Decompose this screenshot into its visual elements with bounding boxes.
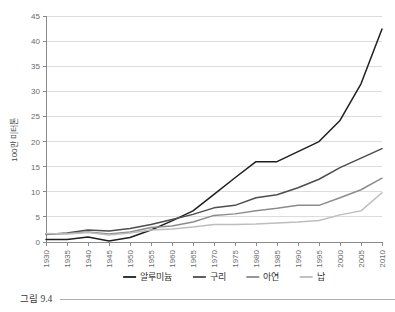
x-tick-label: 1965 <box>189 249 198 267</box>
y-tick-label: 40 <box>31 37 40 46</box>
x-tick-label: 1935 <box>63 249 72 267</box>
legend: 알루미늄구리아연납 <box>123 272 325 282</box>
x-tick-label: 1985 <box>273 249 282 267</box>
x-tick-label: 1945 <box>105 249 114 267</box>
x-tick-label: 2010 <box>378 249 387 267</box>
x-tick-label: 1930 <box>42 249 51 267</box>
y-axis-title: 100만 미터톤 <box>10 118 19 162</box>
x-tick-label: 1970 <box>210 249 219 267</box>
series-line <box>46 193 382 235</box>
x-tick-label: 1980 <box>252 249 261 267</box>
y-axis-ticks: 051015202530354045 <box>31 12 46 247</box>
series-line <box>46 29 382 241</box>
x-tick-label: 2000 <box>336 249 345 267</box>
y-tick-label: 5 <box>36 213 41 222</box>
x-tick-label: 1990 <box>294 249 303 267</box>
y-tick-label: 10 <box>31 188 40 197</box>
data-series <box>46 29 382 241</box>
legend-label[interactable]: 아연 <box>263 272 279 282</box>
x-tick-label: 1960 <box>168 249 177 267</box>
x-tick-label: 1975 <box>231 249 240 267</box>
x-tick-label: 2005 <box>357 249 366 267</box>
legend-label[interactable]: 알루미늄 <box>140 272 172 282</box>
figure-container: 051015202530354045 193019351940194519501… <box>0 0 395 312</box>
x-axis-ticks: 1930193519401945195019551960196519701975… <box>42 242 387 268</box>
gridlines <box>46 16 382 217</box>
y-tick-label: 20 <box>31 138 40 147</box>
legend-label[interactable]: 납 <box>317 272 325 282</box>
x-tick-label: 1950 <box>126 249 135 267</box>
y-tick-label: 45 <box>31 12 40 21</box>
y-tick-label: 30 <box>31 87 40 96</box>
y-tick-label: 35 <box>31 62 40 71</box>
x-tick-label: 1940 <box>84 249 93 267</box>
series-line <box>46 178 382 234</box>
x-tick-label: 1955 <box>147 249 156 267</box>
figure-caption: 그림 9.4 <box>20 293 53 304</box>
x-tick-label: 1995 <box>315 249 324 267</box>
line-chart: 051015202530354045 193019351940194519501… <box>0 0 395 312</box>
y-tick-label: 25 <box>31 112 40 121</box>
y-tick-label: 0 <box>36 238 41 247</box>
y-tick-label: 15 <box>31 163 40 172</box>
legend-label[interactable]: 구리 <box>210 272 226 282</box>
